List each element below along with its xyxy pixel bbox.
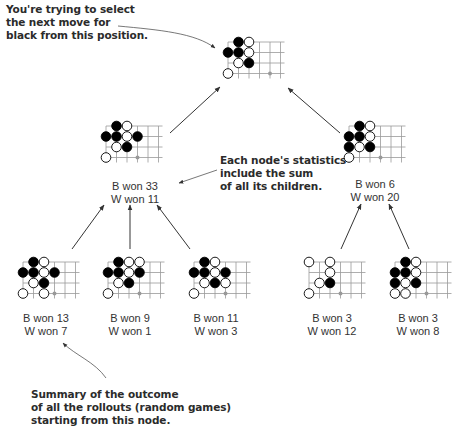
white-stone-icon [355,142,365,152]
callout-middle-pointer [179,170,217,183]
white-stone-icon [200,278,210,288]
black-stone-icon [124,278,134,288]
black-stone-icon [210,278,220,288]
white-stone-icon [124,268,134,278]
go-board-mid-left [100,120,166,166]
edge-leaf4-to-midright [341,204,361,249]
white-stone-icon [114,278,124,288]
white-stone-icon [122,121,132,131]
edge-leaf5-to-midright [389,204,409,249]
node-stats-leaf-5: B won 3 W won 8 [378,312,458,338]
black-wins: B won 9 [90,312,170,325]
white-stone-icon [411,268,421,278]
black-stone-icon [244,58,254,68]
black-stone-icon [411,278,421,288]
black-stone-icon [200,257,210,267]
edge-leaf1-to-midleft [72,205,104,249]
white-stone-icon [411,257,421,267]
white-stone-icon [124,257,134,267]
white-stone-icon [325,268,335,278]
white-stone-icon [39,268,49,278]
white-stone-icon [304,289,314,299]
black-stone-icon [390,278,400,288]
edge-midleft-to-root [170,87,220,133]
black-stone-icon [390,268,400,278]
white-stone-icon [103,289,113,299]
white-stone-icon [29,278,39,288]
black-stone-icon [112,132,122,142]
black-stone-icon [122,142,132,152]
node-stats-mid-right: B won 6 W won 20 [335,178,415,204]
callout-top-text: You're trying to select the next move fo… [6,3,148,42]
go-board-leaf-5 [389,256,455,302]
white-wins: W won 1 [90,325,170,338]
white-stone-icon [365,132,375,142]
white-wins: W won 8 [378,325,458,338]
black-wins: B won 33 [95,180,175,193]
white-wins: W won 12 [292,325,372,338]
mcts-tree-diagram: You're trying to select the next move fo… [0,0,470,439]
white-stone-icon [135,257,145,267]
white-stone-icon [304,257,314,267]
white-stone-icon [315,278,325,288]
black-stone-icon [223,48,233,58]
node-stats-leaf-2: B won 9 W won 1 [90,312,170,338]
white-stone-icon [234,58,244,68]
white-stone-icon [18,289,28,299]
black-stone-icon [103,268,113,278]
black-stone-icon [234,37,244,47]
white-wins: W won 3 [176,325,256,338]
black-stone-icon [18,268,28,278]
black-stone-icon [114,268,124,278]
marker-dot-icon [379,156,383,160]
node-stats-mid-left: B won 33 W won 11 [95,180,175,206]
black-wins: B won 3 [292,312,372,325]
white-stone-icon [344,153,354,163]
black-wins: B won 13 [6,312,86,325]
black-stone-icon [401,268,411,278]
marker-dot-icon [268,72,272,76]
black-stone-icon [29,257,39,267]
white-stone-icon [244,48,254,58]
marker-dot-icon [425,292,429,296]
marker-dot-icon [339,292,343,296]
black-wins: B won 11 [176,312,256,325]
white-stone-icon [122,132,132,142]
go-board-mid-right [343,120,409,166]
white-stone-icon [223,69,233,79]
white-stone-icon [390,289,400,299]
callout-middle-text: Each node's statistics include the sum o… [220,154,346,193]
edge-leaf3-to-midleft [157,205,190,249]
go-board-leaf-1 [17,256,83,302]
black-stone-icon [355,132,365,142]
black-stone-icon [114,257,124,267]
black-stone-icon [344,142,354,152]
black-stone-icon [355,121,365,131]
black-wins: B won 6 [335,178,415,191]
black-stone-icon [344,132,354,142]
black-stone-icon [50,268,60,278]
black-stone-icon [221,268,231,278]
node-stats-leaf-4: B won 3 W won 12 [292,312,372,338]
black-stone-icon [325,278,335,288]
black-stone-icon [29,268,39,278]
white-stone-icon [244,37,254,47]
marker-dot-icon [224,292,228,296]
go-board-leaf-2 [102,256,168,302]
white-wins: W won 20 [335,191,415,204]
marker-dot-icon [138,292,142,296]
white-stone-icon [39,257,49,267]
callout-bottom-pointer [63,343,106,378]
black-stone-icon [365,142,375,152]
black-stone-icon [401,257,411,267]
black-stone-icon [133,132,143,142]
marker-dot-icon [53,292,57,296]
black-stone-icon [39,278,49,288]
go-board-root [222,36,288,82]
white-stone-icon [325,257,335,267]
white-stone-icon [401,278,411,288]
node-stats-leaf-3: B won 11 W won 3 [176,312,256,338]
black-wins: B won 3 [378,312,458,325]
white-stone-icon [221,278,231,288]
white-wins: W won 7 [6,325,86,338]
